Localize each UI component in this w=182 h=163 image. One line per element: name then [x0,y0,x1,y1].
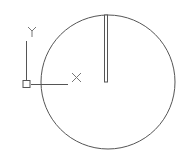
ucs-icon [23,27,81,88]
ucs-origin-box [23,81,30,88]
ucs-y-label [28,27,36,37]
cad-canvas[interactable] [0,0,182,163]
slot-shape[interactable] [105,15,108,82]
ucs-x-label [72,73,81,82]
